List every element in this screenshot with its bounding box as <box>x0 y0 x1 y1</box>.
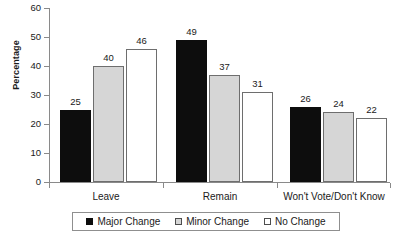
bar-remain-no-change <box>242 92 273 182</box>
bar-remain-minor-change <box>209 75 240 182</box>
legend-label-no-change: No Change <box>275 217 326 227</box>
legend-entry-minor-change: Minor Change <box>175 217 249 227</box>
y-tick-label-40: 40 <box>1 61 41 71</box>
bar-leave-major-change <box>60 110 91 182</box>
x-category-label-remain: Remain <box>163 191 277 202</box>
y-tick-20 <box>44 124 50 125</box>
bar-leave-no-change <box>126 49 157 182</box>
legend-label-minor-change: Minor Change <box>186 217 249 227</box>
x-category-label-wont-vote: Won't Vote/Don't Know <box>277 191 391 202</box>
legend-swatch-no-change-icon <box>264 218 271 225</box>
y-tick-40 <box>44 66 50 67</box>
bar-remain-major-change <box>176 40 207 182</box>
bar-leave-minor-change <box>93 66 124 182</box>
x-tick-end <box>390 183 391 188</box>
x-tick-2 <box>277 183 278 188</box>
bar-chart: Percentage 60 50 40 30 20 10 0 25 40 46 … <box>0 0 400 236</box>
y-tick-label-20: 20 <box>1 119 41 129</box>
y-tick-label-10: 10 <box>1 148 41 158</box>
bar-label-remain-no-change: 31 <box>238 79 277 89</box>
legend-label-major-change: Major Change <box>97 217 160 227</box>
legend-swatch-major-change-icon <box>86 218 93 225</box>
y-tick-label-0: 0 <box>1 177 41 187</box>
y-tick-30 <box>44 95 50 96</box>
bar-label-remain-major-change: 49 <box>172 27 211 37</box>
x-axis-line <box>49 182 390 183</box>
legend-swatch-minor-change-icon <box>175 218 182 225</box>
y-tick-label-50: 50 <box>1 32 41 42</box>
x-category-label-leave: Leave <box>49 191 163 202</box>
y-tick-label-30: 30 <box>1 90 41 100</box>
bar-wont-vote-minor-change <box>323 112 354 182</box>
bar-label-wont-vote-no-change: 22 <box>352 105 391 115</box>
y-tick-10 <box>44 153 50 154</box>
y-tick-60 <box>44 8 50 9</box>
bar-wont-vote-no-change <box>356 118 387 182</box>
legend-entry-no-change: No Change <box>264 217 326 227</box>
bar-label-remain-minor-change: 37 <box>205 62 244 72</box>
bar-label-leave-minor-change: 40 <box>89 53 128 63</box>
y-tick-label-60: 60 <box>1 3 41 13</box>
legend-entry-major-change: Major Change <box>86 217 160 227</box>
x-tick-start <box>49 183 50 188</box>
bar-label-leave-major-change: 25 <box>56 97 95 107</box>
bar-label-leave-no-change: 46 <box>122 36 161 46</box>
y-tick-50 <box>44 37 50 38</box>
x-tick-1 <box>163 183 164 188</box>
bar-wont-vote-major-change <box>290 107 321 182</box>
chart-legend: Major Change Minor Change No Change <box>72 212 340 231</box>
